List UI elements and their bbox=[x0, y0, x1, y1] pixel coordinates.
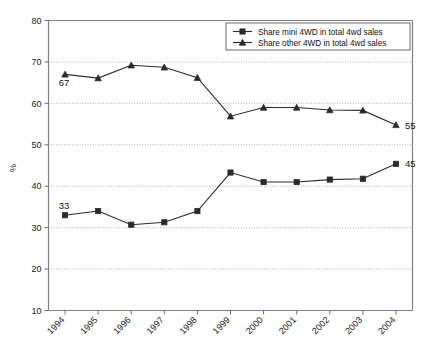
legend-label-1: Share other 4WD in total 4wd sales bbox=[258, 39, 386, 48]
data-point-marker bbox=[294, 179, 299, 184]
data-point-marker bbox=[261, 179, 266, 184]
x-tick-label-1999: 1999 bbox=[211, 315, 232, 336]
legend-label-0: Share mini 4WD in total 4wd sales bbox=[258, 28, 383, 37]
data-point-marker bbox=[393, 122, 399, 128]
x-tick-label-1998: 1998 bbox=[178, 315, 199, 336]
y-tick-label-30: 30 bbox=[31, 223, 41, 233]
x-tick-label-1996: 1996 bbox=[111, 315, 132, 336]
x-tick-label-2002: 2002 bbox=[310, 315, 331, 336]
x-tick-label-1995: 1995 bbox=[78, 315, 99, 336]
data-label-45: 45 bbox=[405, 158, 416, 169]
data-point-marker bbox=[360, 176, 365, 181]
y-axis-ticks: 1020304050607080 bbox=[31, 16, 48, 316]
data-point-marker bbox=[162, 220, 167, 225]
chart-container: 1020304050607080 19941995199619971998199… bbox=[0, 0, 428, 358]
x-tick-label-1997: 1997 bbox=[144, 315, 165, 336]
y-tick-label-70: 70 bbox=[31, 57, 41, 67]
data-point-marker bbox=[393, 161, 398, 166]
y-tick-label-20: 20 bbox=[31, 264, 41, 274]
x-tick-label-2001: 2001 bbox=[277, 315, 298, 336]
data-point-marker bbox=[228, 170, 233, 175]
y-tick-label-10: 10 bbox=[31, 306, 41, 316]
legend-marker-square bbox=[240, 29, 245, 34]
x-tick-label-2004: 2004 bbox=[376, 315, 397, 336]
data-point-marker bbox=[327, 177, 332, 182]
y-axis-title: % bbox=[8, 164, 18, 172]
data-point-marker bbox=[195, 208, 200, 213]
data-label-55: 55 bbox=[405, 120, 416, 131]
x-tick-label-1994: 1994 bbox=[45, 315, 66, 336]
data-labels-group: 67335545 bbox=[59, 77, 416, 211]
y-tick-label-80: 80 bbox=[31, 16, 41, 26]
data-label-67: 67 bbox=[59, 77, 70, 88]
line-chart: 1020304050607080 19941995199619971998199… bbox=[0, 0, 428, 358]
y-tick-label-60: 60 bbox=[31, 99, 41, 109]
x-tick-label-2003: 2003 bbox=[343, 315, 364, 336]
data-point-marker bbox=[62, 213, 67, 218]
y-tick-label-50: 50 bbox=[31, 140, 41, 150]
x-axis-ticks: 1994199519961997199819992000200120022003… bbox=[45, 311, 397, 337]
data-point-marker bbox=[96, 208, 101, 213]
data-label-33: 33 bbox=[59, 200, 70, 211]
chart-legend: Share mini 4WD in total 4wd salesShare o… bbox=[226, 23, 410, 50]
gridlines bbox=[49, 62, 413, 269]
data-point-marker bbox=[129, 222, 134, 227]
y-tick-label-40: 40 bbox=[31, 181, 41, 191]
x-tick-label-2000: 2000 bbox=[244, 315, 265, 336]
